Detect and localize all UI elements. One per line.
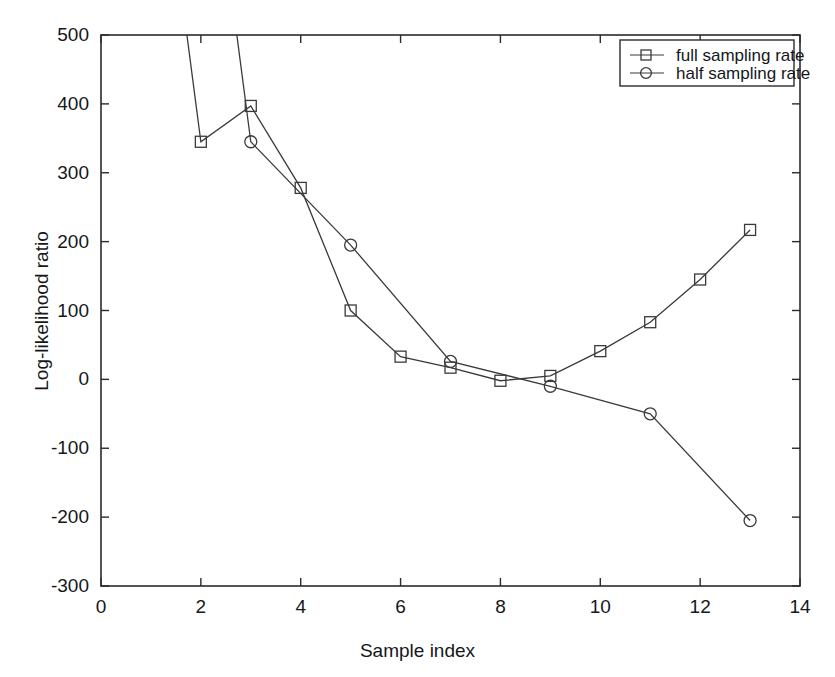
x-tick-label: 12 bbox=[690, 596, 711, 618]
chart-plot-area bbox=[0, 0, 835, 677]
x-tick-label: 10 bbox=[590, 596, 611, 618]
legend-label-half-sampling-rate: half sampling rate bbox=[676, 64, 810, 84]
x-tick-label: 2 bbox=[196, 596, 207, 618]
y-tick-label: 500 bbox=[0, 24, 89, 46]
x-tick-label: 14 bbox=[789, 596, 810, 618]
y-tick-label: -200 bbox=[0, 506, 89, 528]
y-tick-label: 400 bbox=[0, 93, 89, 115]
y-axis-label-wrapper: Log-likelihood ratio bbox=[31, 151, 53, 471]
x-tick-label: 0 bbox=[96, 596, 107, 618]
y-axis-label: Log-likelihood ratio bbox=[31, 231, 52, 391]
legend-label-full-sampling-rate: full sampling rate bbox=[676, 46, 805, 66]
x-tick-label: 8 bbox=[495, 596, 506, 618]
x-tick-label: 6 bbox=[395, 596, 406, 618]
figure-container: -300-200-1000100200300400500 02468101214… bbox=[0, 0, 835, 677]
x-axis-label: Sample index bbox=[0, 640, 835, 662]
axes-frame bbox=[101, 35, 800, 586]
x-tick-label: 4 bbox=[295, 596, 306, 618]
y-tick-label: -300 bbox=[0, 575, 89, 597]
axis-ticks bbox=[101, 35, 800, 586]
